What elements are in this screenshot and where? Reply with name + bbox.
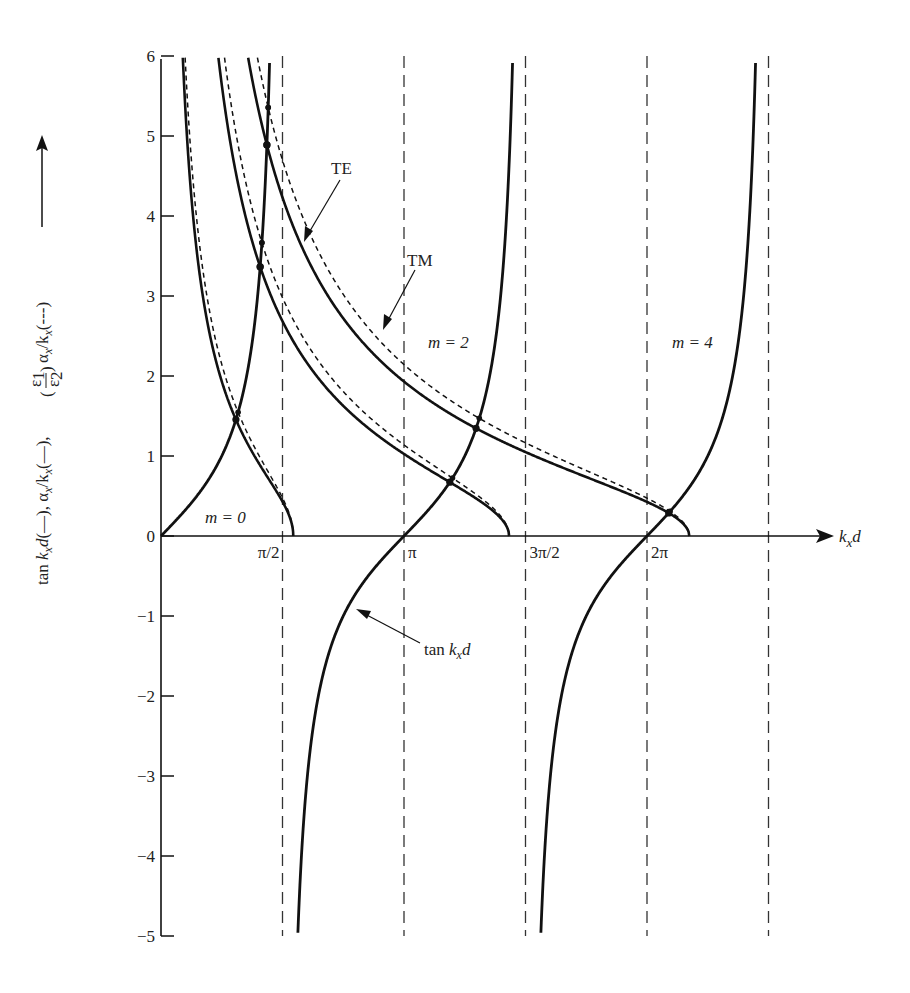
asymptote-lines	[283, 56, 769, 936]
mode-label-m2: m = 2	[428, 333, 469, 352]
mode-label-m4: m = 4	[672, 333, 713, 352]
y-tick-label: −3	[137, 767, 155, 786]
y-tick-label: 4	[147, 207, 156, 226]
intersection-dot	[257, 263, 264, 270]
tm-arrow	[386, 270, 415, 324]
y-tick-label: 6	[147, 47, 156, 66]
y-tick-label: −5	[137, 927, 155, 946]
tm-curve	[185, 58, 293, 536]
y-tick-label: −1	[137, 607, 155, 626]
tan-arrow-head-icon	[356, 609, 371, 619]
y-axis-label: tan kxd(—), αx/kx(—), ( ε 1 ε 2 ) αx/kx(…	[26, 135, 66, 585]
y-tick-label: 0	[147, 527, 156, 546]
y-tick-label: 2	[147, 367, 156, 386]
intersection-dots	[232, 105, 673, 517]
intersection-dot	[235, 409, 241, 415]
intersection-dot	[667, 509, 673, 515]
y-tick-label: 1	[147, 447, 156, 466]
intersection-dot	[232, 416, 239, 423]
y-tick-label: −4	[137, 847, 156, 866]
x-axis-label: kxd	[839, 527, 861, 550]
svg-text:(: (	[37, 391, 56, 397]
te-arrow	[307, 180, 340, 236]
x-tick-label: 2π	[651, 543, 669, 562]
tan-curve-label: tan kxd	[424, 640, 471, 662]
intersection-dot	[472, 425, 479, 432]
x-tick-label: π/2	[258, 543, 280, 562]
svg-text:): )	[37, 366, 56, 372]
x-tick-label: π	[408, 543, 417, 562]
intersection-dot	[265, 105, 271, 111]
tan-curve	[161, 63, 270, 536]
x-tick-label: 3π/2	[530, 543, 560, 562]
intersection-dot	[259, 240, 265, 246]
te-curve	[183, 58, 293, 536]
mode-label-m0: m = 0	[205, 508, 246, 527]
mode-chart: 6543210−1−2−3−4−5 π/2π3π/22π kxd tan kxd…	[0, 0, 910, 993]
svg-text:αx/kx(---): αx/kx(---)	[33, 302, 55, 363]
x-ticks: π/2π3π/22π	[258, 543, 669, 562]
te-curve	[248, 58, 689, 536]
curves	[161, 58, 756, 933]
tan-arrow	[363, 613, 420, 643]
y-tick-label: 3	[147, 287, 156, 306]
tan-curve	[541, 63, 756, 933]
y-tick-label: 5	[147, 127, 156, 146]
tm-label: TM	[407, 251, 433, 270]
y-ticks: 6543210−1−2−3−4−5	[137, 47, 174, 946]
y-tick-label: −2	[137, 687, 155, 706]
svg-text:tan kxd(—), αx/kx(—),: tan kxd(—), αx/kx(—),	[33, 436, 55, 585]
intersection-dot	[450, 475, 456, 481]
intersection-dot	[477, 416, 483, 422]
te-label: TE	[331, 159, 352, 178]
intersection-dot	[263, 141, 270, 148]
tm-curve	[257, 58, 689, 536]
